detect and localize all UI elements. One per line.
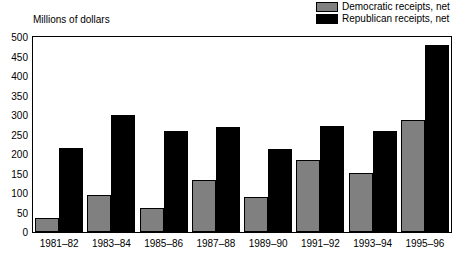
bar-republican: [268, 149, 292, 232]
bar-republican: [373, 131, 397, 232]
y-axis-tick-label: 400: [0, 71, 28, 82]
y-axis-tick-label: 50: [0, 207, 28, 218]
y-axis-title: Millions of dollars: [33, 14, 110, 25]
x-axis-tick-label: 1983–84: [92, 238, 131, 249]
bar-democratic: [401, 120, 425, 232]
bar-republican: [164, 131, 188, 232]
legend-item-democratic: Democratic receipts, net: [316, 1, 450, 12]
legend-swatch-gray-icon: [316, 2, 338, 12]
y-axis-tick-labels: 050100150200250300350400450500: [0, 36, 28, 233]
bar-democratic: [349, 173, 373, 232]
y-axis-tick-label: 250: [0, 129, 28, 140]
x-axis-tick-label: 1985–86: [144, 238, 183, 249]
legend-swatch-black-icon: [316, 14, 338, 24]
chart-legend: Democratic receipts, net Republican rece…: [316, 1, 450, 24]
chart-page: Democratic receipts, net Republican rece…: [0, 0, 466, 264]
bar-democratic: [192, 180, 216, 232]
y-axis-tick-label: 150: [0, 168, 28, 179]
x-axis-tick-label: 1993–94: [353, 238, 392, 249]
legend-label-republican: Republican receipts, net: [342, 13, 449, 24]
bar-group: [85, 37, 137, 232]
bar-group: [347, 37, 399, 232]
bar-group: [138, 37, 190, 232]
legend-item-republican: Republican receipts, net: [316, 13, 450, 24]
bar-republican: [216, 127, 240, 232]
bar-group: [33, 37, 85, 232]
y-axis-tick-label: 500: [0, 32, 28, 43]
y-axis-tick-label: 300: [0, 110, 28, 121]
x-axis-tick-label: 1991–92: [301, 238, 340, 249]
x-axis-tick-label: 1981–82: [40, 238, 79, 249]
y-axis-tick-label: 350: [0, 90, 28, 101]
bar-democratic: [244, 197, 268, 232]
bar-democratic: [87, 195, 111, 232]
y-axis-tick-label: 200: [0, 149, 28, 160]
bar-democratic: [296, 160, 320, 232]
x-axis-tick-label: 1995–96: [405, 238, 444, 249]
bar-republican: [111, 115, 135, 232]
bar-republican: [59, 148, 83, 232]
bar-group: [242, 37, 294, 232]
bar-group: [190, 37, 242, 232]
legend-label-democratic: Democratic receipts, net: [342, 1, 450, 12]
bar-group: [399, 37, 451, 232]
bar-republican: [320, 126, 344, 232]
y-axis-tick-label: 450: [0, 51, 28, 62]
x-axis-tick-labels: 1981–821983–841985–861987–881989–901991–…: [33, 238, 451, 252]
bar-republican: [425, 45, 449, 232]
plot-area: [33, 37, 451, 232]
x-axis-tick-label: 1989–90: [249, 238, 288, 249]
y-axis-tick-label: 100: [0, 188, 28, 199]
x-axis-tick-label: 1987–88: [196, 238, 235, 249]
bar-group: [294, 37, 346, 232]
bar-democratic: [35, 218, 59, 232]
bar-democratic: [140, 208, 164, 232]
y-axis-tick-label: 0: [0, 227, 28, 238]
